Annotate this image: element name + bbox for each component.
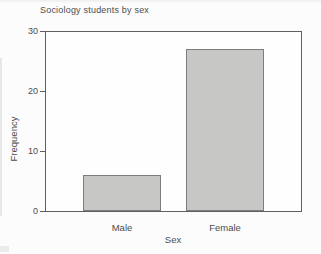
scan-artifact-top bbox=[0, 0, 321, 3]
x-category-label-male: Male bbox=[112, 222, 133, 233]
scan-artifact-left bbox=[0, 58, 2, 216]
x-category-label-female: Female bbox=[209, 222, 241, 233]
bar-chart: Sociology students by sex Frequency 0102… bbox=[0, 0, 321, 254]
y-tick-label-0: 0 bbox=[0, 206, 38, 216]
scan-artifact-corner bbox=[0, 246, 9, 252]
bar-female bbox=[186, 49, 264, 211]
y-tick-mark-20 bbox=[40, 91, 45, 92]
y-tick-mark-0 bbox=[40, 211, 45, 212]
y-tick-label-20: 20 bbox=[0, 86, 38, 96]
y-tick-label-10: 10 bbox=[0, 146, 38, 156]
y-tick-label-30: 30 bbox=[0, 26, 38, 36]
chart-title: Sociology students by sex bbox=[40, 5, 149, 15]
y-tick-mark-10 bbox=[40, 151, 45, 152]
y-tick-mark-30 bbox=[40, 31, 45, 32]
x-axis-label: Sex bbox=[165, 234, 181, 245]
bar-male bbox=[83, 175, 161, 211]
